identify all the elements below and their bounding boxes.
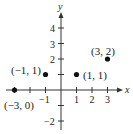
y-axis-arrow-icon	[59, 12, 64, 18]
x-axis-label: x	[124, 84, 130, 95]
point-label: (3, 2)	[91, 45, 115, 58]
x-tick-label: 1	[74, 94, 79, 105]
point-label: (−1, 1)	[11, 64, 41, 77]
coordinate-plane: x y −1 1 2 3 4 3 2 −2 (−3, 0) (−1, 1) (1…	[0, 0, 133, 134]
data-point	[12, 87, 17, 92]
x-tick-label: −1	[39, 94, 50, 105]
y-axis-label: y	[57, 1, 63, 12]
point-label: (1, 1)	[83, 69, 107, 82]
point-label: (−3, 0)	[4, 99, 34, 112]
x-tick-label: 2	[90, 94, 95, 105]
x-tick-label: 3	[105, 94, 110, 105]
x-axis-arrow-icon	[117, 88, 123, 93]
y-tick-label: 4	[50, 23, 55, 34]
y-tick-label: 3	[50, 39, 55, 50]
data-point	[43, 72, 48, 77]
data-point	[74, 72, 79, 77]
y-tick-label: −2	[44, 116, 55, 127]
y-tick-label: 2	[50, 54, 55, 65]
data-point	[105, 56, 110, 61]
